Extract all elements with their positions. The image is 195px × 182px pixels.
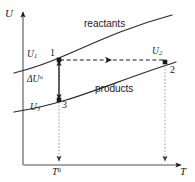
t-standard-superscript: 0 [58,166,61,173]
point-3-energy-subscript: 3 [37,105,40,112]
energy-temperature-diagram: U T reactants products U1 1 U2 2 U3 3 ΔU… [0,0,195,182]
point-1-energy-symbol: U [27,49,34,59]
delta-u-symbol: ΔU [27,74,39,84]
delta-u-superscript: o [39,73,42,80]
point-3-number: 3 [62,100,67,110]
point-2-energy-label: U2 [152,47,162,57]
point-2-energy-subscript: 2 [159,49,162,56]
point-3-energy-label: U3 [30,103,40,113]
reactants-curve-label: reactants [84,19,125,29]
point-3-energy-symbol: U [30,102,37,112]
y-axis-label: U [5,8,13,19]
point-2-energy-symbol: U [152,46,159,56]
t-standard-label: T0 [52,167,61,177]
point-2-number: 2 [170,65,175,75]
process-arrow-1-to-2 [60,57,164,64]
state-point-markers [57,58,168,103]
delta-u-label: ΔUo [27,74,43,84]
x-axis-label: T [180,166,186,177]
point-1-energy-subscript: 1 [34,52,37,59]
point-1-number: 1 [50,48,55,58]
products-curve-label: products [95,84,133,94]
point-1-energy-label: U1 [27,50,37,60]
